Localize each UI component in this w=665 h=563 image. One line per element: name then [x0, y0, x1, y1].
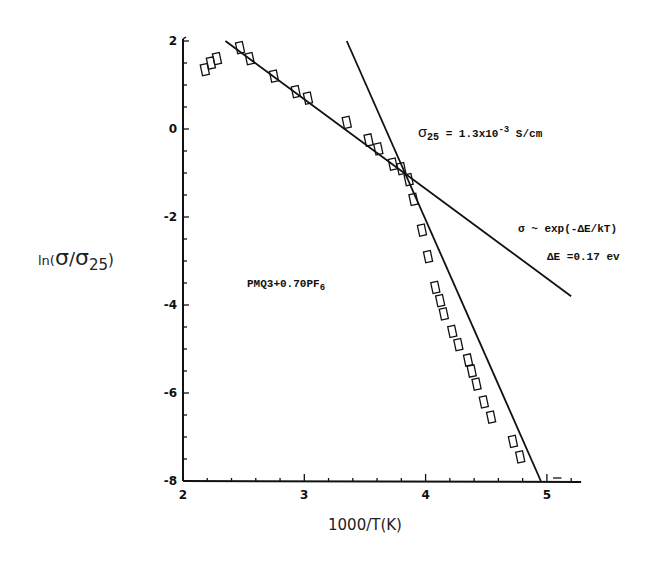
data-point [479, 396, 488, 408]
data-point [487, 411, 496, 423]
data-point [417, 224, 426, 236]
data-point [467, 365, 476, 377]
data-point [212, 52, 221, 64]
data-point [431, 281, 440, 293]
y-tick-label: -6 [164, 386, 177, 400]
data-point [454, 338, 463, 350]
data-point [516, 451, 525, 463]
x-tick-label: 4 [421, 488, 429, 502]
y-tick-label: -2 [164, 210, 177, 224]
x-tick-label: 2 [179, 488, 187, 502]
y-tick-label: -8 [164, 474, 177, 488]
data-point [439, 308, 448, 320]
chart-plot: 20-2-4-6-82345 1000/T(K) ln(σ/σ25) σ25 =… [0, 0, 665, 563]
data-point [472, 378, 481, 390]
y-tick-label: 0 [169, 122, 177, 136]
data-point [436, 294, 445, 306]
x-tick-label: 3 [300, 488, 308, 502]
sample-label: PMQ3+0.70PF6 [247, 278, 325, 293]
fit-line [347, 41, 541, 481]
data-point [342, 116, 351, 128]
data-point [423, 250, 432, 262]
fit-lines [225, 41, 571, 481]
x-tick-label: 5 [543, 488, 551, 502]
axis-ticks: 20-2-4-6-82345 [164, 34, 572, 502]
sigma25-annotation: σ25 = 1.3x10-3 S/cm [418, 125, 543, 143]
activation-energy-annotation: ΔE =0.17 ev [547, 251, 620, 263]
y-tick-label: -4 [164, 298, 177, 312]
x-axis-label: 1000/T(K) [328, 516, 402, 534]
x-axis-line [183, 481, 581, 482]
data-point [448, 325, 457, 337]
formula-annotation: σ ~ exp(-ΔE/kT) [518, 223, 617, 235]
data-points [200, 41, 525, 462]
data-point [409, 193, 418, 205]
data-point [508, 435, 517, 447]
data-point [364, 134, 373, 146]
data-point [463, 354, 472, 366]
y-tick-label: 2 [169, 34, 177, 48]
y-axis-label: ln(σ/σ25) [38, 245, 114, 274]
y-axis-cap [183, 37, 186, 39]
